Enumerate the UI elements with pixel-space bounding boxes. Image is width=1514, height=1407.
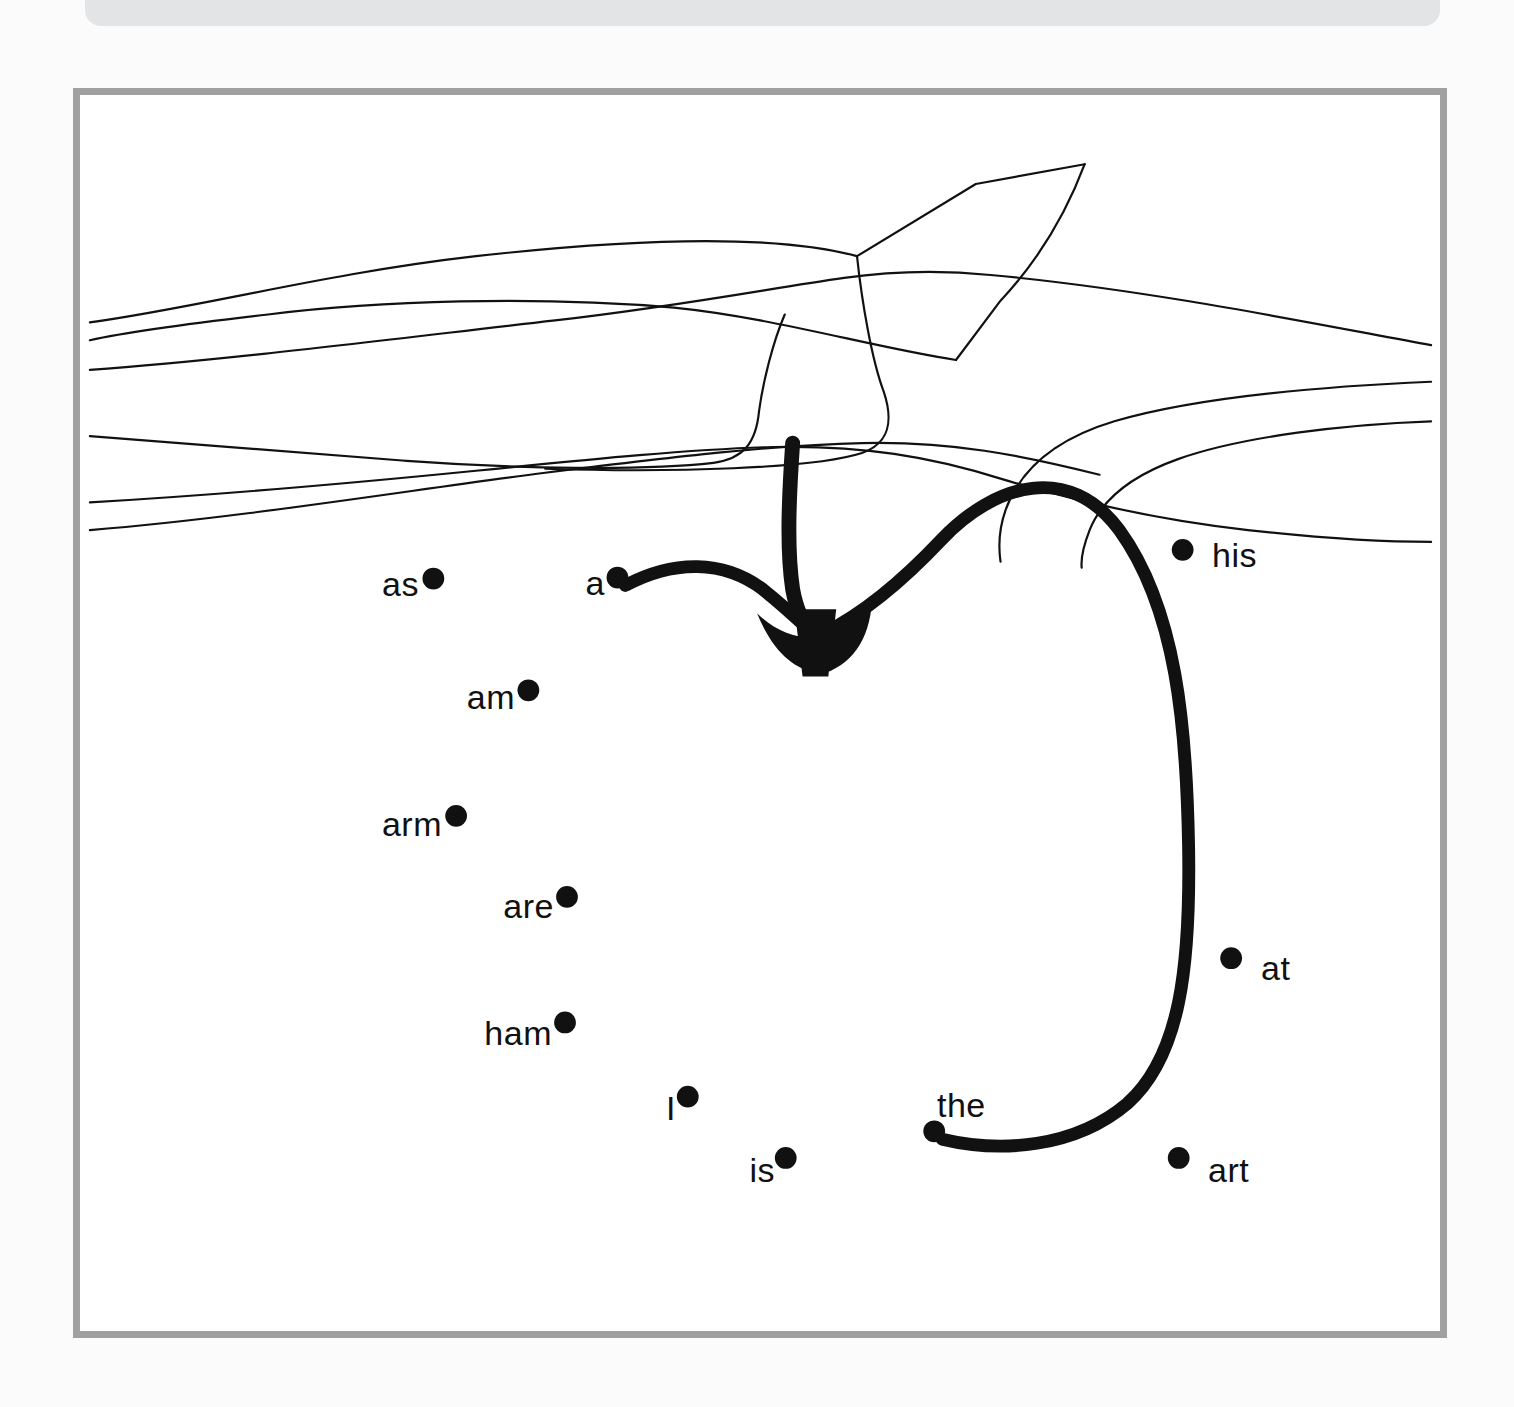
word-label-as: as <box>382 567 419 601</box>
word-label-I: I <box>666 1091 676 1125</box>
word-dot-I[interactable] <box>677 1086 699 1108</box>
worksheet-page: asahisamarmareathamItheisart <box>0 0 1514 1407</box>
word-dot-his[interactable] <box>1172 539 1194 561</box>
word-dot-are[interactable] <box>556 886 578 908</box>
word-label-is: is <box>749 1153 775 1187</box>
word-dot-am[interactable] <box>517 679 539 701</box>
word-label-are: are <box>503 889 554 923</box>
word-dot-arm[interactable] <box>445 805 467 827</box>
illustration-panel: asahisamarmareathamItheisart <box>73 88 1447 1338</box>
word-label-arm: arm <box>382 807 442 841</box>
header-banner <box>85 0 1440 26</box>
word-label-his: his <box>1212 538 1257 572</box>
word-dot-ham[interactable] <box>554 1012 576 1034</box>
illustration-canvas <box>80 95 1440 1331</box>
word-label-ham: ham <box>484 1016 552 1050</box>
word-label-a: a <box>586 566 605 600</box>
tree-branch-line-drawing <box>90 164 1431 567</box>
word-label-am: am <box>467 680 515 714</box>
arrow-from-branch-down <box>789 443 815 635</box>
word-label-at: at <box>1261 951 1290 985</box>
word-dot-at[interactable] <box>1220 947 1242 969</box>
word-dot-art[interactable] <box>1168 1147 1190 1169</box>
word-label-art: art <box>1208 1153 1249 1187</box>
arrow-layer <box>625 443 1188 1146</box>
word-dot-as[interactable] <box>422 568 444 590</box>
word-dot-a[interactable] <box>607 567 629 589</box>
word-dot-is[interactable] <box>775 1147 797 1169</box>
arrow-from-the <box>824 488 1188 1146</box>
word-label-the: the <box>937 1088 986 1122</box>
